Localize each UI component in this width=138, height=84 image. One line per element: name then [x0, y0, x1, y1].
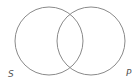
set-s-circle — [15, 7, 83, 75]
venn-diagram: S P — [0, 0, 138, 84]
set-s-label: S — [8, 69, 14, 79]
set-p-circle — [57, 7, 125, 75]
set-p-label: P — [126, 68, 132, 78]
